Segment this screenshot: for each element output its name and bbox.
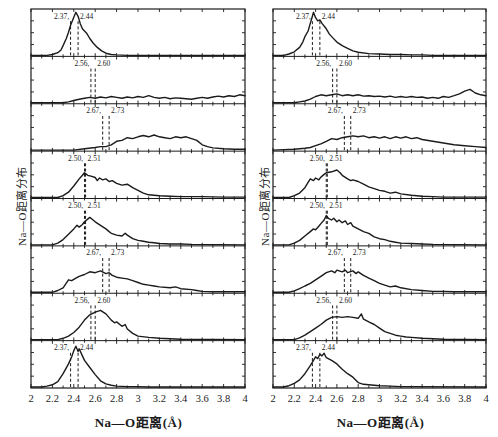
histogram-panel: 2.50,2.51 xyxy=(273,154,486,202)
distribution-curve xyxy=(273,170,486,198)
marker-label-left: 2.50, xyxy=(68,201,83,210)
x-tick-label: 3 xyxy=(377,393,382,404)
left-x-axis-label: Na—O距离(Å) xyxy=(0,412,249,431)
x-tick-label: 2.2 xyxy=(46,393,59,404)
distribution-curve xyxy=(273,270,486,292)
marker-label-right: 2.73 xyxy=(111,106,124,115)
marker-label-left: 2.67, xyxy=(328,106,343,115)
marker-label-right: 2.44 xyxy=(322,343,335,352)
histogram-panel: 2.37,2.44 xyxy=(31,343,245,388)
histogram-panel: 2.56,2.60 xyxy=(273,59,486,107)
histogram-panel: 2.56,2.60 xyxy=(31,296,245,344)
marker-label-right: 2.60 xyxy=(97,296,110,305)
distribution-curve xyxy=(31,271,245,292)
marker-label-left: 2.67, xyxy=(328,248,343,257)
x-tick-label: 2.8 xyxy=(352,393,365,404)
histogram-panel: 2.50,2.51 xyxy=(31,201,245,249)
marker-label-left: 2.37, xyxy=(54,343,69,352)
marker-label-left: 2.50, xyxy=(310,154,325,163)
marker-label-left: 2.56, xyxy=(74,296,89,305)
x-tick-label: 4 xyxy=(483,393,489,404)
x-tick-label: 3.2 xyxy=(153,393,166,404)
histogram-panel: 2.56,2.60 xyxy=(273,296,486,344)
distribution-curve xyxy=(31,217,245,245)
distribution-curve xyxy=(31,310,245,339)
marker-label-right: 2.60 xyxy=(339,296,352,305)
left-histogram-column: Na—O距离分布 2.37,2.442.56,2.602.67,2.732.50… xyxy=(0,0,249,437)
histogram-panel: 2.67,2.73 xyxy=(31,106,245,154)
marker-label-right: 2.73 xyxy=(353,106,366,115)
histogram-panel: 2.50,2.51 xyxy=(273,201,486,249)
distribution-curve xyxy=(273,314,486,340)
marker-label-left: 2.56, xyxy=(316,59,331,68)
marker-label-left: 2.67, xyxy=(86,106,101,115)
marker-label-left: 2.67, xyxy=(86,248,101,257)
marker-label-left: 2.56, xyxy=(316,296,331,305)
figure: Na—O距离分布 2.37,2.442.56,2.602.67,2.732.50… xyxy=(0,0,498,437)
right-x-axis-label: Na—O距离(Å) xyxy=(249,412,498,431)
histogram-panel: 2.56,2.60 xyxy=(31,59,245,107)
x-tick-label: 2.4 xyxy=(309,393,323,404)
x-tick-label: 2.6 xyxy=(330,393,343,404)
marker-label-left: 2.37, xyxy=(296,12,311,21)
marker-label-right: 2.51 xyxy=(329,154,342,163)
x-tick-label: 2 xyxy=(28,393,33,404)
marker-label-right: 2.73 xyxy=(111,248,124,257)
marker-label-right: 2.60 xyxy=(97,59,110,68)
x-tick-label: 2.6 xyxy=(89,393,102,404)
marker-label-left: 2.37, xyxy=(54,12,69,21)
x-tick-label: 3.4 xyxy=(174,393,188,404)
marker-label-right: 2.44 xyxy=(322,12,335,21)
marker-label-right: 2.44 xyxy=(80,12,93,21)
x-tick-label: 3.8 xyxy=(458,393,471,404)
marker-label-left: 2.56, xyxy=(74,59,89,68)
marker-label-right: 2.73 xyxy=(353,248,366,257)
marker-label-right: 2.44 xyxy=(80,343,93,352)
left-histogram-panels: 2.37,2.442.56,2.602.67,2.732.50,2.512.50… xyxy=(0,0,249,437)
x-tick-label: 3 xyxy=(135,393,140,404)
histogram-panel: 2.67,2.73 xyxy=(273,248,486,296)
histogram-panel: 2.37,2.44 xyxy=(273,343,486,388)
x-tick-label: 3.8 xyxy=(217,393,230,404)
marker-label-left: 2.37, xyxy=(296,343,311,352)
distribution-curve xyxy=(273,216,486,245)
marker-label-right: 2.51 xyxy=(88,154,101,163)
distribution-curve xyxy=(273,353,486,387)
x-tick-label: 3.6 xyxy=(437,393,450,404)
x-tick-label: 2.2 xyxy=(288,393,301,404)
x-tick-label: 4 xyxy=(242,393,248,404)
histogram-panel: 2.67,2.73 xyxy=(273,106,486,154)
marker-label-right: 2.51 xyxy=(329,201,342,210)
distribution-curve xyxy=(31,173,245,198)
histogram-panel: 2.37,2.44 xyxy=(31,9,245,60)
marker-label-right: 2.51 xyxy=(88,201,101,210)
x-tick-label: 3.4 xyxy=(416,393,430,404)
x-tick-label: 2.8 xyxy=(110,393,123,404)
marker-label-right: 2.60 xyxy=(339,59,352,68)
right-histogram-column: Na—O距离分布 2.37,2.442.56,2.602.67,2.732.50… xyxy=(249,0,498,437)
distribution-curve xyxy=(31,346,245,387)
histogram-panel: 2.37,2.44 xyxy=(273,9,486,60)
histogram-panel: 2.50,2.51 xyxy=(31,154,245,202)
x-tick-label: 2.4 xyxy=(67,393,81,404)
x-tick-label: 2 xyxy=(270,393,275,404)
histogram-panel: 2.67,2.73 xyxy=(31,248,245,296)
marker-label-left: 2.50, xyxy=(68,154,83,163)
marker-label-left: 2.50, xyxy=(310,201,325,210)
x-tick-label: 3.2 xyxy=(394,393,407,404)
right-histogram-panels: 2.37,2.442.56,2.602.67,2.732.50,2.512.50… xyxy=(249,0,498,437)
distribution-curve xyxy=(31,135,245,150)
x-tick-label: 3.6 xyxy=(196,393,209,404)
